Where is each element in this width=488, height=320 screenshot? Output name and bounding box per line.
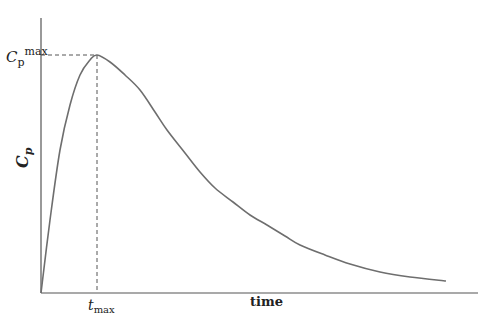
x-axis-label: time: [250, 294, 283, 309]
peak-y-label: Cpmax: [6, 45, 49, 69]
y-axis-label: Cp: [13, 147, 35, 168]
pk-curve-chart: Cpmax Cp tmax time: [0, 0, 488, 320]
concentration-curve: [41, 55, 446, 293]
peak-x-label: tmax: [88, 297, 115, 315]
